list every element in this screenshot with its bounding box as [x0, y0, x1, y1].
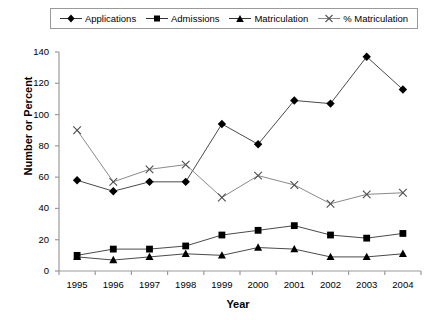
- x-tick-label: 2004: [386, 280, 420, 290]
- series-matriculation: [73, 243, 407, 263]
- x-tick-label: 1996: [96, 280, 130, 290]
- x-tick-label: 2003: [350, 280, 384, 290]
- chart-figure: Applications Admissions Matriculation % …: [0, 0, 434, 320]
- series-matriculation: [73, 126, 406, 207]
- y-tick-label: 120: [23, 78, 49, 88]
- x-tick-label: 2002: [314, 280, 348, 290]
- y-tick-label: 0: [23, 266, 49, 276]
- x-tick-label: 2001: [277, 280, 311, 290]
- y-tick-label: 20: [23, 235, 49, 245]
- x-tick-label: 1998: [169, 280, 203, 290]
- x-tick-label: 1997: [133, 280, 167, 290]
- y-tick-label: 60: [23, 172, 49, 182]
- x-tick-label: 1999: [205, 280, 239, 290]
- y-tick-label: 140: [23, 47, 49, 57]
- x-tick-label: 2000: [241, 280, 275, 290]
- y-tick-label: 100: [23, 110, 49, 120]
- y-tick-label: 80: [23, 141, 49, 151]
- x-tick-label: 1995: [60, 280, 94, 290]
- y-tick-label: 40: [23, 203, 49, 213]
- plot-area: [0, 0, 434, 320]
- series-applications: [73, 52, 407, 195]
- series-admissions: [74, 222, 407, 259]
